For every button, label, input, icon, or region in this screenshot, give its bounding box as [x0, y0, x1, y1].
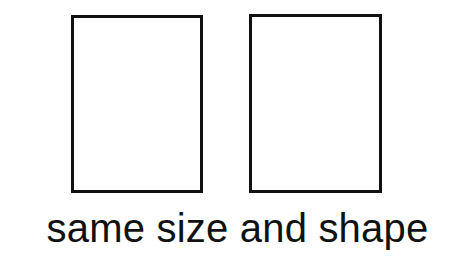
rectangle-left: [71, 15, 203, 193]
shape-pair-group: [0, 0, 475, 200]
rectangle-right: [249, 14, 382, 193]
figure-canvas: same size and shape: [0, 0, 475, 262]
figure-caption: same size and shape: [0, 204, 475, 252]
